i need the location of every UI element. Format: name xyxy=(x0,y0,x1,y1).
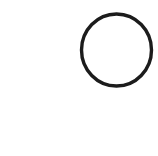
sketch-svg xyxy=(0,0,158,156)
drawing-canvas xyxy=(0,0,158,156)
circle-shape xyxy=(82,14,152,86)
